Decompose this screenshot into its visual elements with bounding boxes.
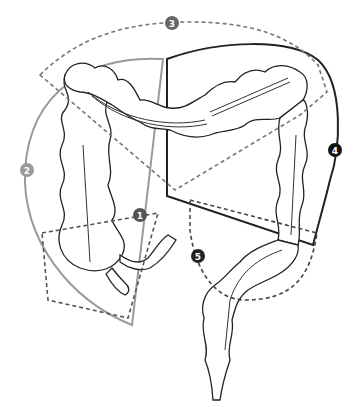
- colon-diagram: 1 2 3 4 5: [0, 0, 358, 407]
- marker-4: 4: [328, 143, 342, 157]
- marker-2: 2: [20, 163, 34, 177]
- svg-text:3: 3: [169, 19, 175, 29]
- svg-text:4: 4: [332, 146, 338, 156]
- svg-text:2: 2: [24, 166, 30, 176]
- svg-text:1: 1: [137, 211, 143, 221]
- sigmoid-colon: [203, 240, 299, 400]
- marker-1: 1: [133, 208, 147, 222]
- marker-5: 5: [191, 249, 205, 263]
- marker-3: 3: [165, 16, 179, 30]
- svg-text:5: 5: [195, 252, 201, 262]
- ileum: [120, 235, 176, 270]
- appendix: [106, 268, 129, 295]
